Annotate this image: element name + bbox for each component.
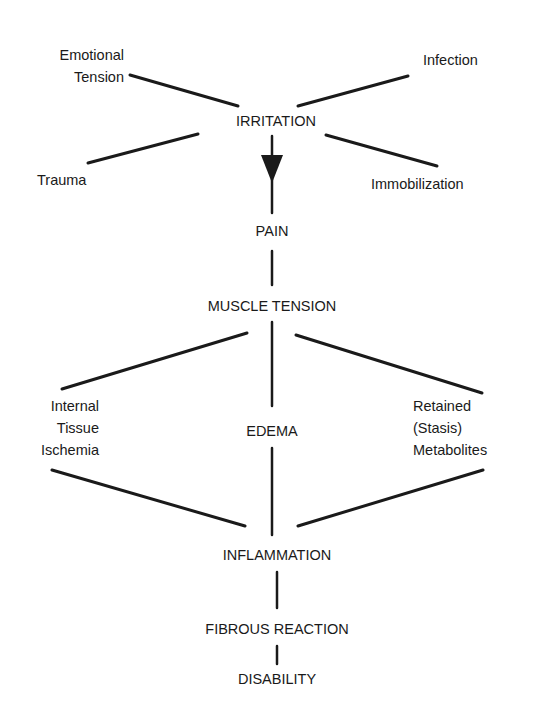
node-trauma: Trauma (37, 169, 86, 191)
edge-muscle-metabolites (296, 335, 482, 393)
edge-ischemia-inflammation (52, 470, 245, 526)
arrow-down-icon (261, 155, 283, 183)
node-immobilization: Immobilization (371, 173, 464, 195)
node-inflammation: INFLAMMATION (223, 544, 331, 566)
node-muscle-tension: MUSCLE TENSION (208, 295, 337, 317)
edge-metabolites-inflammation (298, 470, 483, 526)
flow-diagram: Emotional Tension Infection IRRITATION T… (0, 0, 536, 718)
node-infection: Infection (423, 49, 478, 71)
node-retained-metabolites: Retained (Stasis) Metabolites (413, 395, 487, 461)
edge-infection (298, 76, 408, 106)
node-internal-tissue-ischemia: Internal Tissue Ischemia (20, 395, 99, 461)
connector-lines (0, 0, 536, 718)
node-fibrous-reaction: FIBROUS REACTION (205, 618, 348, 640)
node-emotional-tension: Emotional Tension (38, 44, 124, 88)
edge-trauma (88, 134, 198, 163)
node-disability: DISABILITY (238, 668, 316, 690)
node-irritation: IRRITATION (236, 110, 316, 132)
edge-muscle-ischemia (62, 333, 247, 389)
edge-emotional-tension (130, 75, 238, 106)
node-pain: PAIN (256, 220, 289, 242)
edge-immobilization (326, 135, 437, 166)
node-edema: EDEMA (246, 420, 298, 442)
